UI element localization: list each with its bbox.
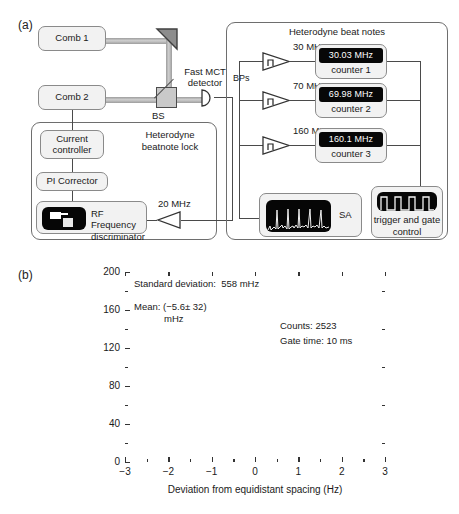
x-tick-label: 3 (370, 466, 400, 477)
sa-label: SA (339, 210, 352, 221)
lock-freq-label: 20 MHz (158, 198, 191, 209)
wire-counter1-out (387, 61, 421, 62)
rf-discriminator-line2: discriminator (91, 231, 146, 242)
x-tick-label: 2 (327, 466, 357, 477)
wire-ch3-in (239, 145, 263, 146)
x-tick (298, 457, 299, 462)
y-minor-tick (382, 291, 385, 292)
counter-2-label: counter 2 (331, 104, 371, 115)
wire-bps-bus (239, 61, 240, 183)
histogram-chart: 04080120160200 −3−2−10123 Counts Deviati… (0, 262, 459, 514)
x-tick (385, 457, 386, 462)
comb1-label: Comb 1 (55, 33, 88, 44)
wire-pi-to-discriminator (72, 191, 73, 201)
rf-discriminator-display (42, 207, 86, 230)
annotation-standard-deviation: Standard deviation: 558 mHz (134, 277, 259, 291)
y-tick (125, 386, 130, 387)
x-tick-top (168, 272, 169, 276)
x-tick-top (385, 272, 386, 276)
x-minor-tick (233, 459, 234, 462)
y-minor-tick (382, 367, 385, 368)
beam-splitter-icon (156, 87, 177, 108)
y-minor-tick (382, 405, 385, 406)
x-tick (212, 457, 213, 462)
wire-right-bus (420, 61, 421, 186)
counter-2-reading: 69.98 MHz (329, 89, 373, 99)
current-controller-box[interactable]: Current controller (40, 130, 104, 159)
bandpass-filter-3-icon (262, 136, 290, 155)
x-tick-label: 0 (240, 466, 270, 477)
x-tick-label: −3 (110, 466, 140, 477)
trigger-gate-box[interactable]: trigger and gate control (371, 186, 443, 238)
panel-a-letter: (a) (18, 18, 33, 32)
x-tick-top (255, 272, 256, 276)
current-controller-line2: controller (52, 145, 91, 156)
y-tick-label: 160 (90, 304, 120, 315)
wire-amp20-to-discriminator (147, 220, 157, 221)
rf-discriminator-line1: RF Frequency (91, 208, 146, 231)
counter-1-label: counter 1 (331, 65, 371, 76)
spectrum-analyzer-box[interactable]: SA (259, 193, 362, 237)
y-tick-label: 200 (90, 266, 120, 277)
x-axis-title: Deviation from equidistant spacing (Hz) (125, 484, 385, 495)
trigger-gate-display (377, 192, 437, 211)
x-tick (125, 457, 126, 462)
comb1-box[interactable]: Comb 1 (38, 26, 106, 51)
counter-2-box[interactable]: 69.98 MHz counter 2 (315, 83, 387, 118)
annotation-gate-time: Gate time: 10 ms (280, 334, 352, 348)
x-minor-tick (363, 459, 364, 462)
counter-1-reading: 30.03 MHz (329, 50, 373, 60)
wire-counter2-out (387, 100, 421, 101)
counter-3-display: 160.1 MHz (319, 132, 383, 147)
pi-corrector-label: PI Corrector (46, 176, 97, 187)
y-minor-tick (125, 367, 128, 368)
x-tick-label: −2 (153, 466, 183, 477)
y-tick-label: 80 (90, 380, 120, 391)
x-tick-label: 1 (283, 466, 313, 477)
pi-corrector-box[interactable]: PI Corrector (36, 172, 108, 191)
wire-sa-drop (239, 183, 240, 219)
trigger-gate-line2: control (393, 226, 422, 237)
counter-2-display: 69.98 MHz (319, 87, 383, 102)
x-tick-label: −1 (197, 466, 227, 477)
counter-3-reading: 160.1 MHz (329, 134, 373, 144)
wire-ch3-to-counter (289, 145, 315, 146)
rf-discriminator-box[interactable]: RF Frequency discriminator (36, 201, 147, 234)
counter-3-box[interactable]: 160.1 MHz counter 3 (315, 128, 387, 163)
y-tick (125, 348, 130, 349)
x-tick-top (212, 272, 213, 276)
y-tick-label: 120 (90, 342, 120, 353)
wire-amp20-input (181, 220, 232, 221)
sa-display (266, 200, 331, 232)
lock-group-title-line1: Heterodyne (130, 130, 210, 141)
trigger-gate-line1: trigger and gate (374, 214, 441, 225)
figure-root: (a) BS Comb 1 Comb 2 Fast MCT detector H… (0, 0, 459, 514)
x-tick (168, 457, 169, 462)
x-minor-tick (147, 459, 148, 462)
lock-group-title-line2: beatnote lock (130, 142, 210, 153)
x-tick-top (298, 272, 299, 276)
mirror-icon (155, 27, 179, 51)
bps-label: BPs (233, 73, 250, 83)
counter-1-display: 30.03 MHz (319, 48, 383, 63)
y-tick (125, 424, 130, 425)
comb2-box[interactable]: Comb 2 (38, 85, 106, 110)
annotation-counts: Counts: 2523 (280, 319, 337, 333)
y-minor-tick (382, 443, 385, 444)
wire-ch2-to-counter (289, 100, 315, 101)
x-tick (255, 457, 256, 462)
y-tick (125, 462, 130, 463)
y-tick-label: 40 (90, 418, 120, 429)
wire-sa-in (239, 218, 261, 219)
y-minor-tick (382, 329, 385, 330)
wire-ch1-in (239, 61, 263, 62)
x-minor-tick (320, 459, 321, 462)
wire-ch2-in (239, 100, 263, 101)
amplifier-20mhz-icon (156, 211, 182, 229)
bandpass-filter-2-icon (262, 91, 290, 110)
counter-3-label: counter 3 (331, 149, 371, 160)
counter-1-box[interactable]: 30.03 MHz counter 1 (315, 44, 387, 79)
y-minor-tick (125, 291, 128, 292)
comb2-label: Comb 2 (55, 92, 88, 103)
y-minor-tick (125, 443, 128, 444)
